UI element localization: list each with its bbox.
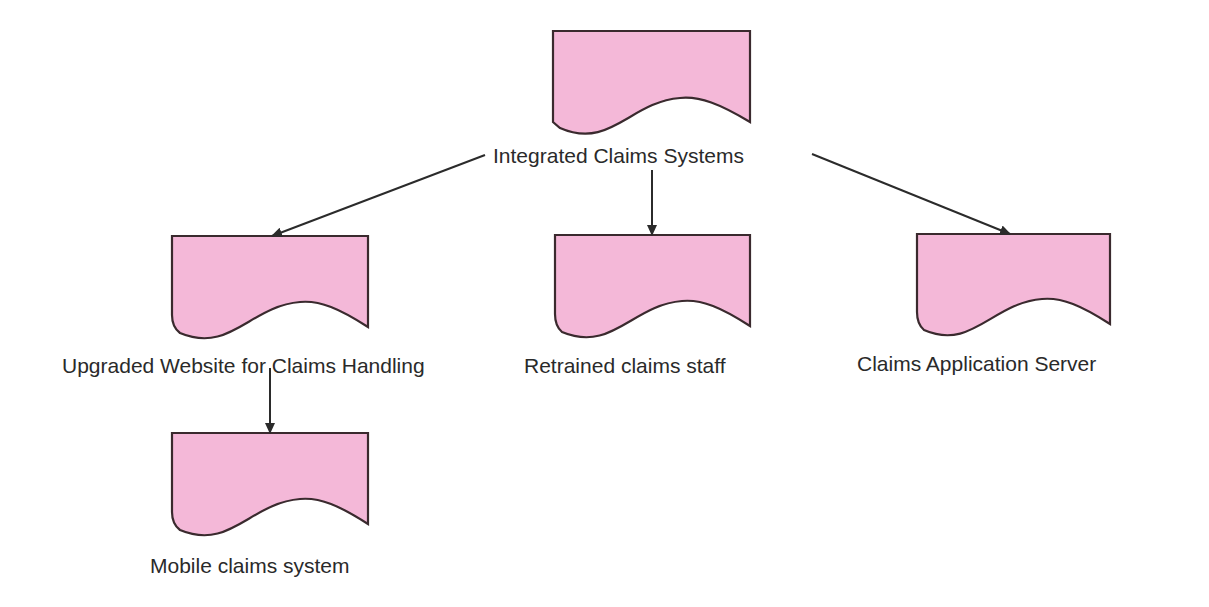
- diagram-canvas: [0, 0, 1209, 607]
- node-label-server: Claims Application Server: [855, 352, 1098, 376]
- document-shape-root[interactable]: [553, 31, 750, 134]
- node-label-mobile: Mobile claims system: [148, 554, 352, 578]
- node-label-staff: Retrained claims staff: [522, 354, 728, 378]
- document-shape-staff[interactable]: [555, 235, 750, 337]
- node-label-website: Upgraded Website for Claims Handling: [60, 354, 427, 378]
- connector-root-to-website: [272, 155, 485, 236]
- document-shape-website[interactable]: [172, 236, 368, 338]
- node-label-root: Integrated Claims Systems: [491, 144, 746, 168]
- document-shape-mobile[interactable]: [172, 433, 368, 535]
- document-shape-server[interactable]: [917, 234, 1110, 335]
- connector-root-to-server: [812, 154, 1010, 234]
